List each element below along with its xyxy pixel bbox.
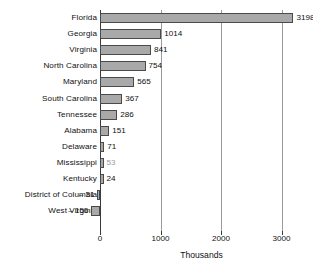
bar: [100, 126, 109, 136]
category-label: Kentucky: [63, 173, 97, 185]
value-label: 565: [137, 76, 151, 88]
value-label: 367: [125, 93, 139, 105]
bar: [100, 142, 104, 152]
bar-row: South Carolina367: [0, 93, 313, 107]
category-label: Mississippi: [57, 157, 97, 169]
value-label: 24: [107, 173, 116, 185]
category-label: Delaware: [62, 141, 97, 153]
value-label: – 31: [79, 189, 95, 201]
bar: [100, 29, 161, 39]
bar-row: North Carolina754: [0, 60, 313, 74]
value-label: – 156: [68, 205, 88, 217]
value-label: 286: [120, 109, 134, 121]
bar: [100, 110, 117, 120]
bar-chart: Florida3198Georgia1014Virginia841North C…: [0, 0, 313, 268]
bar-row: Tennessee286: [0, 109, 313, 123]
x-axis-title-text: Thousands: [180, 250, 223, 261]
bar-row: Kentucky24: [0, 173, 313, 187]
value-label: 71: [107, 141, 116, 153]
bar: [100, 77, 134, 87]
value-label: 3198: [296, 12, 313, 24]
value-label: 1014: [164, 28, 182, 40]
category-label: North Carolina: [43, 60, 97, 72]
category-label: Virginia: [69, 44, 97, 56]
bar-row: Virginia841: [0, 44, 313, 58]
category-label: Maryland: [63, 76, 97, 88]
bar-row: Florida3198: [0, 12, 313, 26]
value-label: 53: [107, 157, 116, 169]
plot-area: Florida3198Georgia1014Virginia841North C…: [0, 0, 313, 231]
category-label: Georgia: [68, 28, 98, 40]
x-axis-title: Thousands: [0, 250, 313, 261]
bar: [100, 45, 151, 55]
bar: [91, 206, 100, 216]
bar-row: District of Columbia– 31: [0, 189, 313, 203]
bar-row: Georgia1014: [0, 28, 313, 42]
bar: [100, 13, 293, 23]
value-label: 151: [112, 125, 126, 137]
bar-row: Mississippi53: [0, 157, 313, 171]
bar: [100, 158, 104, 168]
x-axis-tick-label: 1000: [141, 234, 181, 244]
bar-row: Delaware71: [0, 141, 313, 155]
value-label: 754: [149, 60, 163, 72]
bar: [100, 94, 122, 104]
category-label: Alabama: [64, 125, 97, 137]
bar-row: West Virginia– 156: [0, 205, 313, 219]
bar: [100, 61, 146, 71]
bar: [97, 190, 101, 200]
bar-row: Maryland565: [0, 76, 313, 90]
value-label: 841: [154, 44, 168, 56]
bar: [100, 174, 104, 184]
x-axis-tick-label: 3000: [262, 234, 302, 244]
x-axis-tick-label: 0: [80, 234, 120, 244]
bar-row: Alabama151: [0, 125, 313, 139]
category-label: South Carolina: [42, 93, 97, 105]
x-axis-tick-label: 2000: [201, 234, 241, 244]
category-label: Tennessee: [57, 109, 97, 121]
category-label: Florida: [72, 12, 97, 24]
